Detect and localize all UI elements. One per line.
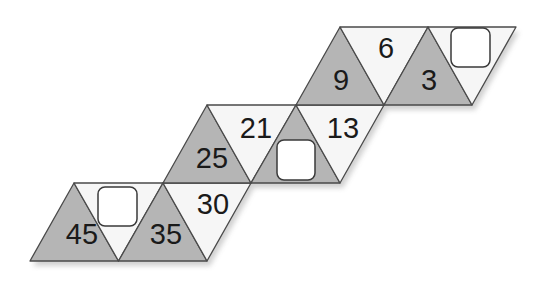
number-9: 9 [333, 64, 349, 96]
number-3: 3 [421, 64, 437, 96]
answer-box-bottom[interactable] [98, 187, 137, 226]
number-25: 25 [196, 142, 228, 174]
number-35: 35 [150, 218, 182, 250]
number-13: 13 [327, 112, 359, 144]
number-45: 45 [66, 218, 98, 250]
number-30: 30 [197, 188, 229, 220]
answer-box-middle[interactable] [277, 140, 315, 180]
number-21: 21 [240, 112, 272, 144]
number-6: 6 [378, 32, 394, 64]
answer-box-top[interactable] [451, 28, 490, 67]
triangle-number-puzzle: 45 35 30 25 21 13 9 6 3 [0, 0, 540, 281]
